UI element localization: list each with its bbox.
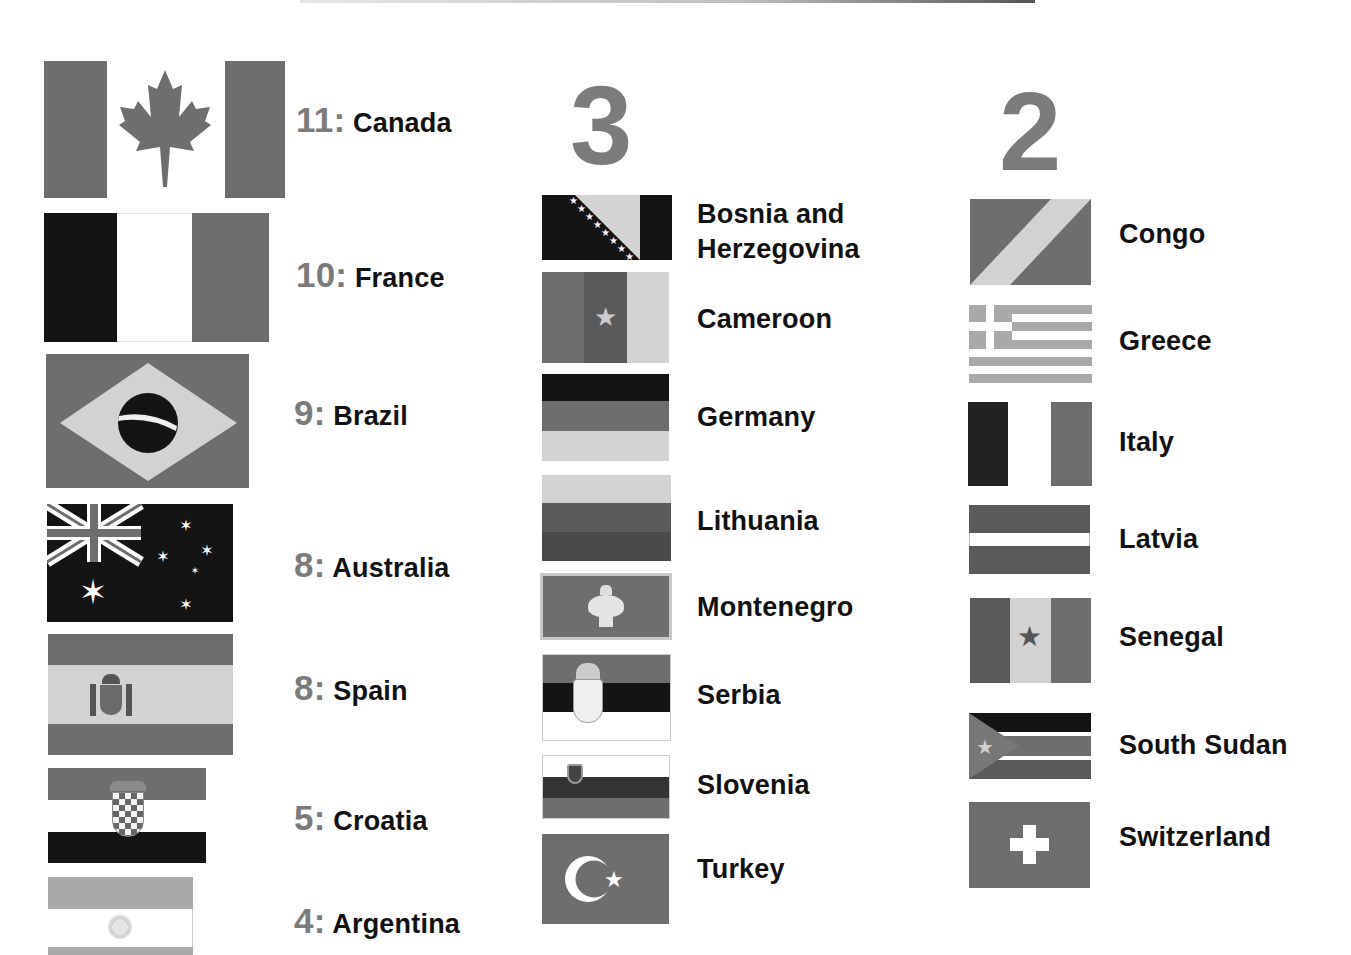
group3-label-germany: Germany [697, 400, 815, 435]
flag-slovenia-icon [542, 755, 670, 819]
top-rule [300, 0, 1035, 3]
coat-of-arms-icon [88, 674, 134, 718]
ranked-label-canada: 11: Canada [296, 97, 452, 143]
flag-lithuania-icon [542, 475, 671, 561]
eagle-emblem-icon [588, 585, 624, 627]
group3-label-slovenia: Slovenia [697, 768, 810, 803]
flag-brazil-icon [46, 354, 249, 488]
svg-text:✶: ✶ [156, 547, 169, 566]
group-3-heading: 3 [570, 70, 632, 182]
flag-switzerland-icon [969, 802, 1090, 888]
ranked-label-brazil: 9: Brazil [294, 390, 408, 436]
coat-of-arms-icon [573, 663, 603, 723]
ranked-label-spain: 8: Spain [294, 665, 408, 711]
ranked-label-australia: 8: Australia [294, 542, 450, 588]
flag-croatia-icon [48, 768, 206, 863]
star-icon: ★ [594, 302, 617, 332]
group2-label-greece: Greece [1119, 324, 1212, 359]
flag-argentina-icon [48, 877, 193, 955]
ranked-label-croatia: 5: Croatia [294, 795, 428, 841]
ranked-label-france: 10: France [296, 252, 445, 298]
sun-icon [108, 915, 132, 939]
group3-label-lithuania: Lithuania [697, 504, 819, 539]
svg-text:★: ★ [976, 735, 994, 759]
group2-label-south-sudan: South Sudan [1119, 728, 1288, 763]
checkerboard-shield-icon [110, 781, 146, 841]
group3-label-cameroon: Cameroon [697, 302, 832, 337]
flag-canada-icon [44, 61, 285, 198]
flag-france-icon [44, 213, 269, 342]
svg-text:★: ★ [625, 251, 634, 260]
svg-text:★: ★ [604, 867, 624, 892]
flag-spain-icon [48, 634, 233, 755]
flag-bosnia-icon: ★★★ ★★★ ★★ [542, 195, 672, 260]
star-icon: ★ [1017, 620, 1042, 653]
svg-text:✶: ✶ [191, 565, 199, 576]
flag-turkey-icon: ★ [542, 834, 669, 924]
svg-text:✶: ✶ [179, 516, 192, 535]
group3-label-turkey: Turkey [697, 852, 785, 887]
group2-label-latvia: Latvia [1119, 522, 1198, 557]
svg-text:✶: ✶ [179, 595, 192, 614]
flag-australia-icon: ✶ ✶ ✶ ✶ ✶ ✶ [47, 504, 233, 622]
flag-greece-icon [969, 305, 1092, 383]
svg-text:✶: ✶ [79, 572, 108, 612]
group2-label-congo: Congo [1119, 217, 1205, 252]
flag-germany-icon [542, 374, 669, 461]
ranked-label-argentina: 4: Argentina [294, 898, 460, 944]
flag-montenegro-icon [540, 573, 672, 640]
group2-label-italy: Italy [1119, 425, 1174, 460]
svg-text:✶: ✶ [200, 541, 213, 560]
group3-label-bosnia: Bosnia and Herzegovina [697, 197, 860, 267]
group-2-heading: 2 [999, 76, 1061, 188]
group2-label-senegal: Senegal [1119, 620, 1224, 655]
flag-italy-icon [968, 402, 1092, 486]
flag-south-sudan-icon: ★ [969, 713, 1091, 779]
flag-latvia-icon [969, 505, 1090, 574]
flag-cameroon-icon: ★ [542, 272, 669, 363]
group3-label-serbia: Serbia [697, 678, 781, 713]
group3-label-montenegro: Montenegro [697, 590, 854, 625]
flag-congo-icon [970, 199, 1091, 285]
group2-label-switzerland: Switzerland [1119, 820, 1271, 855]
flag-serbia-icon [542, 654, 671, 741]
flag-senegal-icon: ★ [970, 598, 1091, 683]
shield-icon [567, 764, 583, 784]
